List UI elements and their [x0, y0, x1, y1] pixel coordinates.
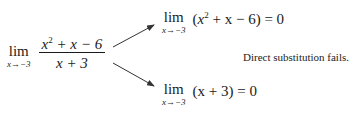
arrow-down-icon — [113, 63, 154, 86]
top-limit: lim x→−3 (x2 + x − 6) = 0 — [162, 10, 284, 35]
lim-subscript: x→−3 — [162, 25, 186, 35]
lim-word: lim — [162, 10, 186, 25]
bottom-lim-operator: lim x→−3 — [162, 82, 186, 107]
top-expression: (x2 + x − 6) = 0 — [193, 11, 285, 27]
arrow-up-icon — [113, 25, 154, 47]
top-lim-operator: lim x→−3 — [162, 10, 186, 35]
top-rest: + x − 6) = 0 — [209, 11, 284, 27]
bottom-limit: lim x→−3 (x + 3) = 0 — [162, 82, 257, 107]
lim-subscript: x→−3 — [162, 97, 186, 107]
bottom-expression: (x + 3) = 0 — [193, 83, 257, 99]
annotation-text: Direct substitution fails. — [243, 51, 349, 63]
lim-word: lim — [162, 82, 186, 97]
